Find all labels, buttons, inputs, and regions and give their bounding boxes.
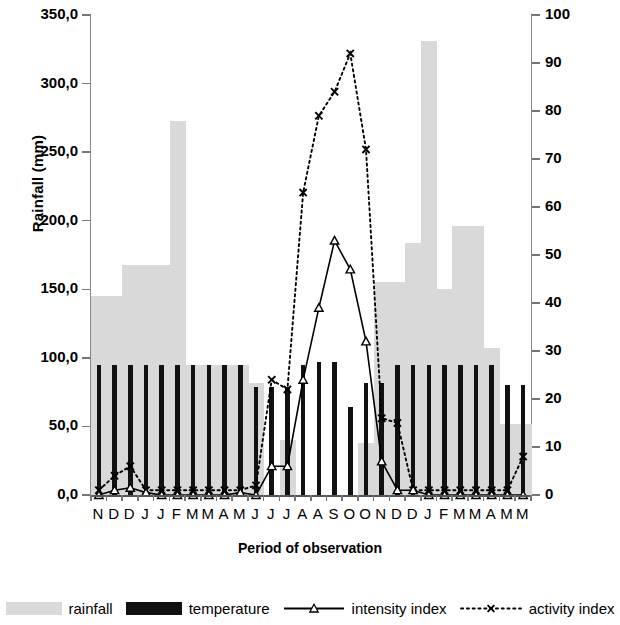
x-axis-tick <box>263 495 265 501</box>
activity-index-marker <box>347 50 354 57</box>
x-axis-tick <box>153 495 155 501</box>
y-axis-left-tick-label: 50,0 <box>0 416 78 433</box>
y-axis-right-tick-label: 20 <box>545 389 562 406</box>
y-axis-left-tick-label: 250,0 <box>0 142 78 159</box>
x-axis-tick <box>483 495 485 501</box>
y-axis-left-tick-label: 350,0 <box>0 5 78 22</box>
y-axis-left-tick-label: 150,0 <box>0 279 78 296</box>
x-axis-tick <box>357 495 359 501</box>
y-axis-right-tick <box>531 158 540 160</box>
y-axis-right-tick-label: 100 <box>545 5 570 22</box>
x-axis-tick <box>499 495 501 501</box>
chart-root: Rainfall (mm) Frequency(%) Temperature (… <box>0 0 620 625</box>
y-axis-right-tick-label: 40 <box>545 293 562 310</box>
intensity-index-marker <box>126 484 134 492</box>
y-axis-right-tick <box>531 254 540 256</box>
x-axis-tick <box>121 495 123 501</box>
legend-label: temperature <box>189 600 270 617</box>
legend-label: activity index <box>529 600 615 617</box>
x-axis-tick <box>530 495 532 501</box>
y-axis-right-tick <box>531 350 540 352</box>
activity-index-marker <box>520 453 527 460</box>
legend-item-rainfall[interactable]: rainfall <box>6 600 113 617</box>
x-axis-tick <box>90 495 92 501</box>
x-axis-tick <box>169 495 171 501</box>
legend-item-activity-index[interactable]: activity index <box>460 600 615 617</box>
y-axis-right-tick <box>531 110 540 112</box>
y-axis-right-tick-label: 80 <box>545 101 562 118</box>
x-axis-tick <box>216 495 218 501</box>
y-axis-right-tick-label: 70 <box>545 149 562 166</box>
legend-item-temperature[interactable]: temperature <box>126 600 270 617</box>
y-axis-right-tick <box>531 302 540 304</box>
plot-area <box>90 15 532 495</box>
y-axis-left-tick-label: 0,0 <box>0 485 78 502</box>
activity-index-marker <box>331 88 338 95</box>
x-axis-tick <box>310 495 312 501</box>
y-axis-right-tick-label: 50 <box>545 245 562 262</box>
x-axis-tick <box>420 495 422 501</box>
intensity-index-marker <box>378 457 386 465</box>
legend-label: intensity index <box>352 600 447 617</box>
y-axis-right-tick <box>531 398 540 400</box>
intensity-index-marker <box>362 337 370 345</box>
y-axis-right-tick <box>531 14 540 16</box>
x-axis-tick <box>341 495 343 501</box>
x-axis-tick <box>137 495 139 501</box>
x-axis-title: Period of observation <box>90 540 530 556</box>
x-axis-tick <box>373 495 375 501</box>
x-axis-tick <box>436 495 438 501</box>
x-axis-tick <box>200 495 202 501</box>
intensity-index-line <box>99 241 523 495</box>
activity-index-marker <box>127 463 134 470</box>
x-axis-tick <box>389 495 391 501</box>
y-axis-right-tick <box>531 206 540 208</box>
temperature-swatch <box>126 602 182 615</box>
x-axis-tick <box>467 495 469 501</box>
line-series-layer <box>91 15 531 495</box>
intensity-index-swatch <box>283 602 345 615</box>
y-axis-left-title: Rainfall (mm) <box>29 89 46 279</box>
legend-label: rainfall <box>69 600 113 617</box>
activity-index-line <box>99 53 523 490</box>
y-axis-right-tick-label: 0 <box>545 485 553 502</box>
intensity-index-marker <box>330 236 338 244</box>
intensity-index-marker <box>315 304 323 312</box>
y-axis-right-tick-label: 10 <box>545 437 562 454</box>
x-axis-tick <box>231 495 233 501</box>
x-axis-tick <box>514 495 516 501</box>
y-axis-right-tick <box>531 446 540 448</box>
intensity-index-marker <box>299 376 307 384</box>
y-axis-right-tick <box>531 62 540 64</box>
x-axis-tick <box>184 495 186 501</box>
y-axis-left-tick-label: 200,0 <box>0 211 78 228</box>
activity-index-marker <box>284 386 291 393</box>
y-axis-right-tick <box>531 494 540 496</box>
intensity-index-marker <box>346 265 354 273</box>
y-axis-right-tick-label: 30 <box>545 341 562 358</box>
x-axis-tick <box>294 495 296 501</box>
x-axis-tick <box>451 495 453 501</box>
activity-index-marker <box>111 472 118 479</box>
x-marker-icon <box>487 605 494 612</box>
y-axis-right-tick-label: 60 <box>545 197 562 214</box>
legend-item-intensity-index[interactable]: intensity index <box>283 600 447 617</box>
chart-legend: rainfalltemperatureintensity indexactivi… <box>0 596 620 620</box>
y-axis-right-tick-label: 90 <box>545 53 562 70</box>
y-axis-left-tick-label: 100,0 <box>0 348 78 365</box>
y-axis-left-tick-label: 300,0 <box>0 74 78 91</box>
x-axis-tick <box>326 495 328 501</box>
x-axis-tick <box>247 495 249 501</box>
rainfall-swatch <box>6 602 62 615</box>
x-axis-tick <box>106 495 108 501</box>
x-axis-tick <box>404 495 406 501</box>
x-axis-tick <box>279 495 281 501</box>
activity-index-marker <box>268 376 275 383</box>
activity-index-swatch <box>460 602 522 615</box>
x-axis-category-label: M <box>509 505 535 522</box>
